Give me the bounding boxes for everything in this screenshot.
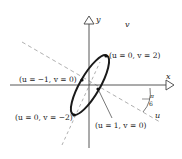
x-axis-arrow-icon: [166, 80, 174, 90]
ellipse-diagram: y x v u π 6 (u = 0, v = 2) (u = −1, v = …: [0, 0, 182, 159]
pointer-line: [99, 91, 112, 118]
angle-numerator: π: [149, 92, 155, 99]
y-axis-arrow-icon: [84, 16, 94, 24]
x-axis-label: x: [166, 72, 171, 81]
label-u0-v2: (u = 0, v = 2): [109, 51, 160, 60]
label-u-1-v0: (u = −1, v = 0): [19, 75, 77, 84]
angle-denominator: 6: [149, 100, 153, 107]
y-axis-label: y: [95, 15, 101, 24]
u-axis-label: u: [155, 111, 160, 120]
v-axis-label: v: [125, 20, 130, 29]
point-u1-v0: [96, 87, 99, 90]
label-u0-v-2: (u = 0, v = −2): [15, 113, 73, 122]
label-u1-v0: (u = 1, v = 0): [95, 121, 146, 130]
point-u-1-v0: [80, 78, 83, 81]
point-u0-v2: [104, 54, 107, 57]
point-u0-v-2: [72, 113, 75, 116]
